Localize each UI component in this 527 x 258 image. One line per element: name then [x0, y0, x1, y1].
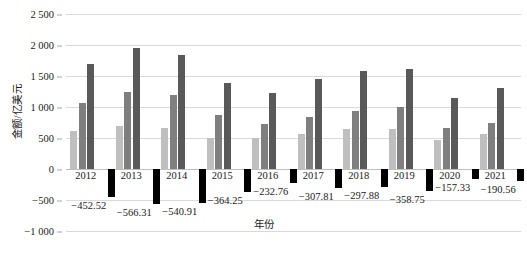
- y-tick-mark: [57, 232, 62, 233]
- y-tick-text: 500: [38, 133, 54, 144]
- x-tick-label-2013: 2013: [112, 170, 152, 181]
- y-tick-label: 2 500: [16, 9, 62, 20]
- bar-series-2-2018: [352, 111, 359, 169]
- bar-series-3-2020: [451, 98, 458, 169]
- y-tick-label: 1 000: [16, 102, 62, 113]
- bar-series-3-2019: [406, 69, 413, 169]
- y-tick-text: 2 500: [30, 9, 54, 20]
- bar-series-1-2017: [298, 134, 305, 169]
- y-tick-mark: [57, 108, 62, 109]
- x-tick-label-2012: 2012: [66, 170, 106, 181]
- bar-series-3-2015: [224, 83, 231, 169]
- y-tick-mark: [57, 15, 62, 16]
- bar-series-1-2013: [116, 126, 123, 169]
- bar-series-1-2012: [70, 131, 77, 169]
- y-tick-label: 1 500: [16, 71, 62, 82]
- x-tick-label-2019: 2019: [385, 170, 425, 181]
- bar-series-3-2016: [269, 93, 276, 169]
- bar-series-1-2018: [343, 129, 350, 169]
- y-tick-text: 0: [49, 164, 54, 175]
- bar-negative-2021: [517, 169, 524, 181]
- x-tick-label-2017: 2017: [294, 170, 334, 181]
- data-label-negative-2021: −190.56: [466, 184, 527, 195]
- y-tick-mark: [57, 170, 62, 171]
- y-tick-mark: [57, 46, 62, 47]
- y-tick-mark: [57, 139, 62, 140]
- bar-series-1-2014: [161, 128, 168, 169]
- bar-series-2-2017: [306, 117, 313, 169]
- bar-series-3-2013: [133, 48, 140, 169]
- x-tick-label-2021: 2021: [476, 170, 516, 181]
- y-tick-mark: [57, 77, 62, 78]
- x-axis-title: 年份: [0, 216, 527, 231]
- x-tick-label-2018: 2018: [339, 170, 379, 181]
- bar-series-2-2016: [261, 124, 268, 169]
- bar-series-2-2021: [488, 123, 495, 170]
- bar-series-3-2017: [315, 79, 322, 169]
- bar-series-1-2015: [207, 138, 214, 169]
- x-tick-label-2015: 2015: [203, 170, 243, 181]
- bar-chart: 金额/亿美元 2 5002 0001 5001 0005000−500−1 00…: [0, 0, 527, 258]
- y-tick-label: 0: [16, 164, 62, 175]
- bar-series-1-2016: [252, 138, 259, 169]
- bar-series-3-2014: [178, 55, 185, 169]
- bar-series-2-2020: [443, 128, 450, 169]
- x-tick-label-2014: 2014: [157, 170, 197, 181]
- y-tick-text: 2 000: [30, 40, 54, 51]
- y-tick-label: 500: [16, 133, 62, 144]
- bar-series-3-2012: [87, 64, 94, 169]
- x-tick-label-2020: 2020: [430, 170, 470, 181]
- bar-series-2-2015: [215, 115, 222, 169]
- bar-series-1-2021: [480, 134, 487, 169]
- bar-series-1-2020: [434, 140, 441, 169]
- bar-series-2-2013: [124, 92, 131, 170]
- bar-series-2-2019: [397, 107, 404, 169]
- bar-series-2-2014: [170, 95, 177, 169]
- y-tick-text: 1 500: [30, 71, 54, 82]
- y-tick-label: 2 000: [16, 40, 62, 51]
- y-tick-text: 1 000: [30, 102, 54, 113]
- bar-series-3-2018: [360, 71, 367, 169]
- bar-series-1-2019: [389, 129, 396, 169]
- bar-series-3-2021: [497, 88, 504, 169]
- y-tick-text: −500: [32, 195, 54, 206]
- bar-series-2-2012: [79, 103, 86, 169]
- x-tick-label-2016: 2016: [248, 170, 288, 181]
